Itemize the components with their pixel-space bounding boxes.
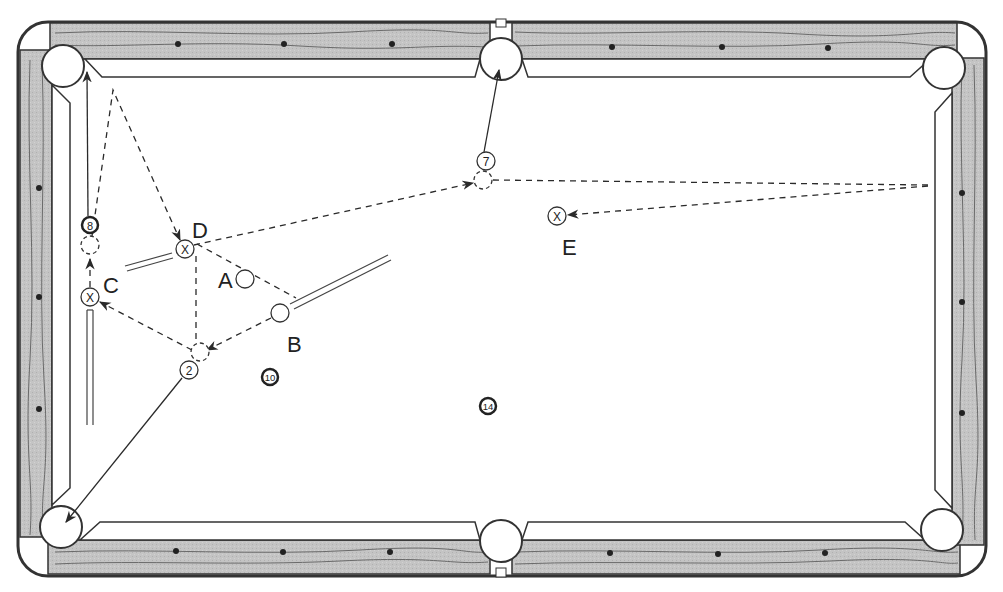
- label-E: E: [562, 235, 577, 260]
- pocket-bottom-left: [40, 506, 82, 548]
- ghost-ball-8: [81, 236, 99, 254]
- label-C: C: [103, 273, 119, 298]
- ball-A: [236, 270, 254, 288]
- ball-number: 2: [186, 364, 193, 378]
- spot-mark: X: [553, 210, 561, 224]
- ball-14: 14: [480, 398, 496, 414]
- ball-B: [271, 304, 289, 322]
- ball-7: 7: [477, 152, 495, 170]
- label-B: B: [287, 332, 302, 357]
- pocket-top-right: [923, 47, 965, 89]
- pocket-bottom-right: [921, 509, 963, 551]
- label-D: D: [192, 218, 208, 243]
- ghost-ball-7: [474, 171, 492, 189]
- ball-number: 8: [87, 220, 93, 232]
- ghost-ball-2: [191, 343, 209, 361]
- label-A: A: [218, 268, 233, 293]
- right-rail: [952, 58, 984, 545]
- top-rail-right: [512, 23, 957, 59]
- spot-mark: X: [86, 291, 94, 305]
- spot-E: X: [548, 207, 566, 225]
- ball-10: 10: [262, 369, 278, 385]
- pocket-bottom-middle: [480, 520, 522, 562]
- ball-number: 10: [265, 372, 276, 383]
- ball-number: 14: [483, 401, 494, 412]
- spot-mark: X: [181, 243, 189, 257]
- ball-number: 7: [483, 155, 490, 169]
- ball-2: 2: [180, 361, 198, 379]
- top-rail-left: [50, 23, 490, 59]
- bottom-rail-left: [48, 540, 490, 574]
- table-frame: [18, 19, 986, 577]
- pocket-top-middle: [480, 38, 522, 80]
- left-rail: [20, 50, 52, 537]
- pocket-top-left: [42, 45, 84, 87]
- spot-C: X: [81, 288, 99, 306]
- billiards-diagram: X X X 8 7 2: [0, 0, 1003, 592]
- bottom-rail-right: [512, 540, 960, 574]
- ball-8: 8: [82, 217, 98, 233]
